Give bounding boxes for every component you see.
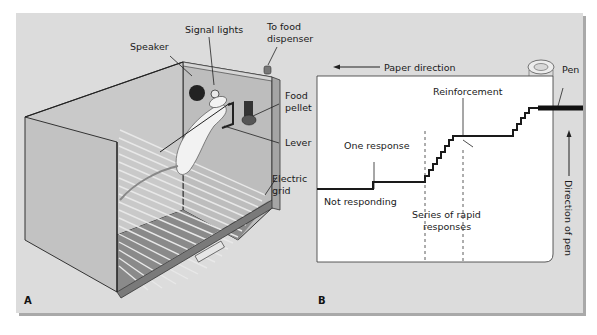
label-speaker: Speaker [130,41,169,52]
skinner-box-illustration [25,62,280,298]
paper-direction-arrow-icon [333,65,340,70]
label-electric-line2: grid [272,185,291,196]
panel-a-letter: A [24,295,32,306]
label-direction-of-pen: Direction of pen [563,180,574,256]
label-series-line2: responses [423,221,471,232]
pen-icon [538,106,583,111]
figure-canvas: Speaker Signal lights To food dispenser … [0,0,597,335]
label-paper-direction: Paper direction [384,62,456,73]
label-reinforcement: Reinforcement [433,86,503,97]
panel-b-letter: B [318,295,326,306]
label-to-food-line1: To food [266,21,301,32]
food-pellet-cup [244,101,253,116]
recorder-paper [317,76,553,262]
label-not-responding: Not responding [324,196,397,207]
label-electric-line1: Electric [272,173,307,184]
label-lever: Lever [285,137,311,148]
food-dispenser-tube [264,66,271,74]
speaker-icon [189,85,205,101]
label-signal-lights: Signal lights [185,24,243,35]
label-pen: Pen [562,64,579,75]
label-to-food-line2: dispenser [267,33,313,44]
pen-direction-arrow-icon [567,130,572,137]
label-food-line1: Food [285,90,308,101]
label-one-response: One response [344,140,410,151]
label-food-line2: pellet [285,102,312,113]
label-series-line1: Series of rapid [412,209,481,220]
